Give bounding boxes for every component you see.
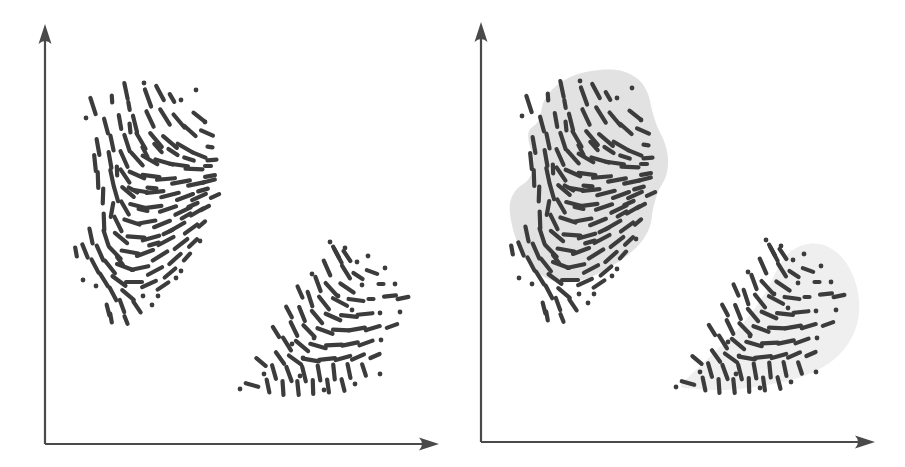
data-point-dot xyxy=(758,386,763,391)
data-point-dot xyxy=(796,281,801,286)
data-point-dash xyxy=(298,287,303,298)
data-point-dash xyxy=(342,379,345,391)
data-point-dash xyxy=(110,136,113,151)
data-point-dash xyxy=(324,261,331,276)
data-point-dash xyxy=(104,214,105,231)
data-point-dash xyxy=(273,327,279,337)
data-point-dot xyxy=(734,372,739,377)
data-point-dash xyxy=(130,124,131,133)
data-point-dash xyxy=(184,126,195,136)
data-point-dash xyxy=(326,345,342,346)
data-point-dash xyxy=(312,311,322,323)
data-point-dot xyxy=(194,88,199,93)
x-axis-arrowhead-icon xyxy=(419,438,439,451)
data-points-group xyxy=(75,81,408,395)
data-point-dot xyxy=(578,79,583,84)
data-point-dash xyxy=(315,277,320,291)
data-point-dash xyxy=(133,116,137,133)
data-point-dot xyxy=(393,282,398,287)
data-point-dash xyxy=(124,83,127,99)
data-point-dot xyxy=(802,252,807,257)
data-point-dot xyxy=(815,336,820,341)
data-point-dash xyxy=(709,325,715,335)
data-point-dash xyxy=(297,381,298,395)
data-point-dash xyxy=(286,307,292,318)
data-point-dash xyxy=(120,300,124,312)
data-point-dash xyxy=(762,343,778,344)
data-point-dash xyxy=(735,305,741,319)
axes-group xyxy=(39,24,440,451)
data-point-dash xyxy=(303,325,314,337)
data-point-dot xyxy=(737,354,742,359)
data-point-dash xyxy=(160,109,170,124)
y-axis-arrowhead-icon xyxy=(39,24,52,44)
data-point-dot xyxy=(398,310,403,315)
data-point-dash xyxy=(593,176,611,178)
data-point-dot xyxy=(141,294,146,299)
data-point-dash xyxy=(201,206,209,210)
data-point-dash xyxy=(153,252,167,261)
data-point-dot xyxy=(298,374,303,379)
data-point-dash xyxy=(170,94,175,102)
data-point-dash xyxy=(114,217,121,231)
data-point-dash xyxy=(581,204,598,206)
data-point-dot xyxy=(517,276,522,281)
data-point-dot xyxy=(834,308,839,313)
data-point-dot xyxy=(610,274,615,279)
data-point-dot xyxy=(764,238,769,243)
data-point-dash xyxy=(75,248,77,257)
data-point-dash xyxy=(584,186,593,187)
data-point-dash xyxy=(139,209,148,211)
data-point-dash xyxy=(91,259,98,272)
data-point-dash xyxy=(168,149,177,155)
data-point-dot xyxy=(698,370,703,375)
data-point-dot xyxy=(353,382,358,387)
data-point-dash xyxy=(644,145,649,146)
data-point-dot xyxy=(142,81,147,86)
data-point-dash xyxy=(121,151,128,167)
data-point-dash xyxy=(90,98,95,114)
data-point-dash xyxy=(564,100,565,108)
data-point-dash xyxy=(110,170,113,186)
data-point-dot xyxy=(791,258,796,263)
data-point-dash xyxy=(526,96,531,112)
scatter-plot-left xyxy=(0,0,452,467)
data-point-dot xyxy=(789,380,794,385)
data-point-dash xyxy=(539,187,540,202)
data-point-dash xyxy=(785,326,801,329)
data-point-dash xyxy=(342,342,358,345)
data-point-dash xyxy=(511,246,513,255)
data-point-dash xyxy=(769,245,775,256)
data-point-dash xyxy=(834,295,845,297)
data-point-dash xyxy=(283,381,284,395)
data-point-dot xyxy=(179,98,184,103)
data-point-dash xyxy=(185,225,197,234)
data-point-dash xyxy=(794,311,809,313)
data-point-dash xyxy=(267,380,270,393)
data-point-dot xyxy=(179,269,184,274)
data-point-dash xyxy=(634,187,644,190)
scatter-plot-right xyxy=(452,0,905,467)
data-point-dash xyxy=(546,312,548,321)
data-point-dash xyxy=(344,251,351,261)
data-point-dash xyxy=(286,367,291,381)
y-axis-arrowhead-icon xyxy=(475,22,488,42)
data-point-dash xyxy=(157,178,175,180)
data-point-dot xyxy=(814,309,819,314)
data-point-dash xyxy=(98,172,99,188)
data-point-dash xyxy=(97,246,104,261)
data-point-dash xyxy=(326,283,337,295)
data-point-dash xyxy=(148,267,162,275)
data-point-dash xyxy=(564,234,581,235)
data-point-dash xyxy=(201,130,213,135)
data-point-dash xyxy=(103,189,104,204)
data-point-dash xyxy=(370,354,379,358)
data-point-dash xyxy=(114,187,118,201)
data-point-dash xyxy=(94,155,96,171)
data-point-dash xyxy=(362,364,366,375)
data-point-dot xyxy=(94,284,99,289)
data-point-dash xyxy=(326,314,341,321)
data-point-dash xyxy=(147,191,164,193)
data-point-dash xyxy=(296,341,308,351)
data-point-dash xyxy=(744,290,749,304)
